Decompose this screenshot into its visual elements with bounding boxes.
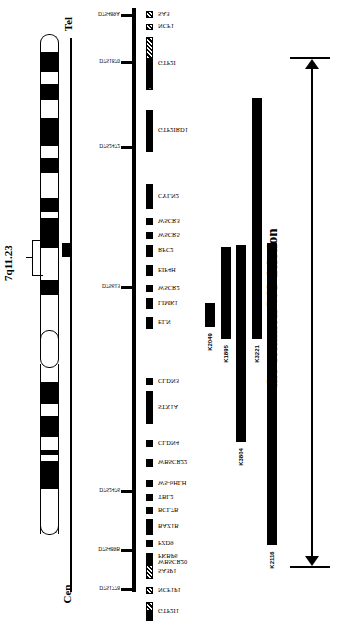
band-label: 7q11.23	[2, 233, 14, 293]
gene-label: WS-bHLH	[158, 480, 187, 487]
gene-box	[146, 285, 153, 292]
ideogram-band	[41, 461, 58, 489]
q-arm-tip	[40, 489, 59, 535]
marker-label: D7S2476	[86, 487, 120, 493]
gene-box	[146, 587, 153, 594]
tel-label: Tel	[62, 17, 74, 31]
ideogram-band	[41, 173, 58, 198]
gene-label: WBSCR20	[158, 559, 187, 566]
band-bracket	[32, 240, 43, 276]
gene-label: GTF2I1	[158, 608, 179, 615]
gene-box	[146, 184, 153, 209]
gene-box	[146, 218, 153, 225]
gene-box	[146, 11, 153, 18]
gene-box	[146, 602, 153, 621]
ideogram-band	[41, 52, 58, 72]
marker-tick	[121, 588, 132, 591]
bracket-tick	[26, 257, 33, 258]
ideogram-band	[41, 100, 58, 118]
gene-box	[146, 110, 153, 152]
ideogram-band	[41, 307, 58, 319]
deletion-bar	[221, 247, 231, 339]
gene-box	[146, 232, 153, 239]
gene-box	[146, 317, 153, 329]
gene-label: WSCR2	[158, 285, 180, 292]
gene-box	[146, 37, 153, 90]
gene-box	[146, 298, 153, 309]
arrow-head-up-icon	[305, 59, 319, 69]
marker-label: D7S2472	[86, 143, 120, 149]
gene-label: SA3	[158, 11, 170, 18]
gene-label: FZD9	[158, 540, 174, 547]
gene-label: BCL7B	[158, 507, 178, 514]
marker-tick	[121, 61, 132, 64]
deletion-label: K3804	[238, 444, 244, 470]
marker-tick	[121, 286, 132, 289]
marker-tick	[121, 146, 132, 149]
marker-axis	[132, 8, 136, 592]
gene-box	[146, 565, 153, 579]
gene-label: CYLN2	[158, 193, 179, 200]
gene-label: LIMK1	[158, 300, 178, 307]
ideogram-band	[41, 118, 58, 146]
gene-box	[146, 540, 153, 547]
gene-label: WBSCR22	[158, 459, 187, 466]
gene-label: ELN	[158, 319, 171, 326]
gene-label: NCF1P1	[158, 587, 181, 594]
gene-box	[146, 507, 153, 514]
gene-label: GTF2I	[158, 60, 176, 67]
gene-box	[146, 378, 153, 385]
gene-label: WSCR3	[158, 218, 180, 225]
deletion-label: K2049	[207, 329, 213, 355]
gene-label: CLDN4	[158, 440, 179, 447]
gene-box	[146, 245, 153, 257]
ideogram-band	[41, 248, 58, 280]
marker-label: D7S1778	[86, 585, 120, 591]
common-ws-deletion-label: the common WS deletion	[264, 214, 281, 404]
ideogram-band	[41, 416, 58, 437]
gene-box	[146, 440, 153, 447]
ideogram-band	[41, 158, 58, 173]
marker-label: D7S489A	[86, 11, 120, 17]
ideogram-band	[41, 280, 58, 295]
gene-label: STX1A	[158, 404, 178, 411]
gene-label: CLDN3	[158, 378, 179, 385]
arrow-bottom-cap	[290, 566, 330, 568]
ideogram-band	[41, 295, 58, 307]
region-highlight	[62, 243, 70, 257]
marker-tick	[121, 490, 132, 493]
gene-label: GTF2IRD1	[158, 127, 188, 134]
gene-label: TBL2	[158, 494, 174, 501]
ideogram-band	[41, 84, 58, 100]
marker-tick	[121, 549, 132, 552]
marker-label: D7S489B	[86, 546, 120, 552]
ideogram-band	[41, 218, 58, 248]
ideogram-band	[41, 72, 58, 84]
gene-box	[146, 553, 153, 560]
ideogram-band	[41, 368, 58, 382]
marker-label: D7S1870	[86, 58, 120, 64]
ideogram-band	[41, 146, 58, 158]
gene-box	[146, 265, 153, 276]
marker-label: D7S613	[86, 283, 120, 289]
gene-box	[146, 519, 153, 535]
gene-label: RFC2	[158, 247, 174, 254]
arrow-shaft	[311, 62, 313, 562]
deletion-bar	[236, 245, 246, 442]
deletion-bar	[252, 98, 262, 339]
ideogram-band	[41, 437, 58, 450]
gene-label: BAZ1B	[158, 523, 179, 530]
gene-box	[146, 459, 153, 467]
marker-tick	[121, 14, 132, 17]
ideogram-band	[41, 382, 58, 404]
arrow-head-down-icon	[305, 556, 319, 566]
gene-label: WSCR5	[158, 232, 180, 239]
region-line	[70, 38, 72, 592]
deletion-bar	[205, 303, 215, 327]
deletion-label: K1895	[223, 341, 229, 367]
ideogram-band	[41, 198, 58, 212]
gene-box	[146, 24, 153, 30]
ideogram-band	[41, 404, 58, 416]
gene-label: SA3P1	[158, 568, 176, 575]
gene-box	[146, 391, 153, 424]
